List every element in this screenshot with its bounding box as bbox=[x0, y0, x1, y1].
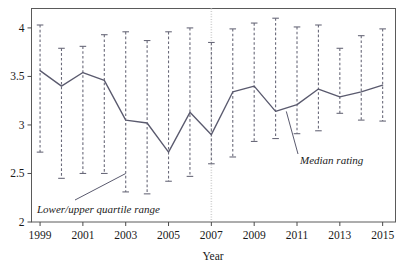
x-tick-label: 2009 bbox=[243, 229, 266, 241]
x-tick-label: 2007 bbox=[200, 229, 223, 241]
y-tick-label: 2 bbox=[19, 216, 25, 228]
x-tick-label: 2001 bbox=[71, 229, 94, 241]
y-tick-label: 3.5 bbox=[10, 70, 25, 82]
error-bar bbox=[122, 32, 129, 192]
x-tick-label: 2011 bbox=[286, 229, 309, 241]
x-tick-label: 1999 bbox=[29, 229, 52, 241]
x-tick-label: 2003 bbox=[114, 229, 137, 241]
annotation-quartile-range: Lower/upper quartile range bbox=[36, 203, 160, 215]
error-bar bbox=[144, 41, 151, 194]
y-tick-label: 4 bbox=[19, 22, 25, 34]
error-bar bbox=[58, 48, 65, 178]
plot-frame bbox=[32, 9, 396, 223]
annotation-leaders bbox=[75, 111, 298, 200]
x-tick-label: 2013 bbox=[328, 229, 351, 241]
error-bar bbox=[272, 18, 279, 138]
leader-line-median bbox=[286, 111, 298, 154]
error-bar bbox=[358, 36, 365, 120]
x-axis-title: Year bbox=[202, 250, 223, 262]
error-bar bbox=[337, 48, 344, 113]
y-axis-ticks: 22.533.54 bbox=[10, 22, 31, 228]
error-bar bbox=[379, 29, 386, 121]
chart-figure: 22.533.54 199920012003200520072009201120… bbox=[0, 0, 415, 266]
error-bar bbox=[251, 23, 258, 141]
line-chart-with-error-bars: 22.533.54 199920012003200520072009201120… bbox=[0, 0, 415, 266]
annotation-median-rating: Median rating bbox=[299, 154, 364, 166]
leader-line-quartile bbox=[75, 174, 126, 201]
y-tick-label: 3 bbox=[19, 119, 25, 131]
error-bar bbox=[101, 35, 108, 174]
error-bar bbox=[187, 28, 194, 176]
error-bar bbox=[80, 46, 87, 173]
error-bar bbox=[294, 27, 301, 134]
error-bar bbox=[37, 25, 44, 152]
error-bar bbox=[315, 25, 322, 131]
x-tick-label: 2005 bbox=[157, 229, 180, 241]
y-tick-label: 2.5 bbox=[10, 167, 25, 179]
x-tick-label: 2015 bbox=[371, 229, 394, 241]
error-bar bbox=[165, 32, 172, 181]
x-axis-ticks: 199920012003200520072009201120132015 bbox=[29, 222, 395, 241]
